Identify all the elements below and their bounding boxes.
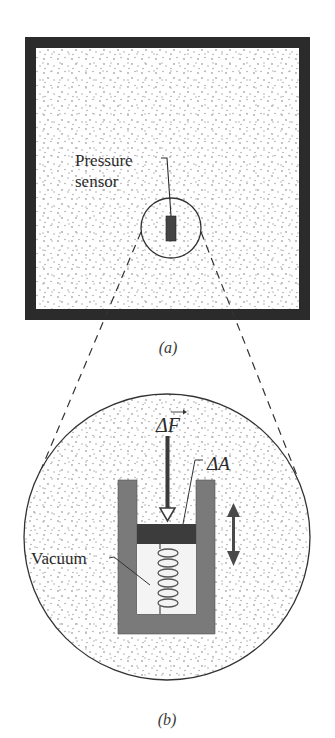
area-label: ΔA xyxy=(206,453,230,474)
sensor-label-line1: Pressure xyxy=(75,151,133,170)
sensor-label-line2: sensor xyxy=(75,172,119,191)
pressure-sensor xyxy=(166,216,176,241)
caption-a: (a) xyxy=(159,339,178,357)
caption-b: (b) xyxy=(158,711,177,729)
panel-b: ΔF ΔA Vacuum (b) xyxy=(20,390,320,729)
pressure-sensor-diagram: Pressure sensor (a) xyxy=(0,0,335,738)
vacuum-label: Vacuum xyxy=(31,549,87,568)
force-label: ΔF xyxy=(155,414,181,436)
panel-a: Pressure sensor (a) xyxy=(25,37,310,357)
piston xyxy=(137,524,196,544)
